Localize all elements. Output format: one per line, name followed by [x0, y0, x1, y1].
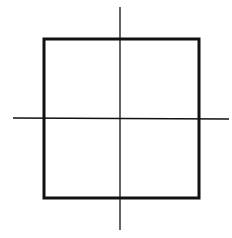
diagram-canvas [0, 0, 232, 238]
